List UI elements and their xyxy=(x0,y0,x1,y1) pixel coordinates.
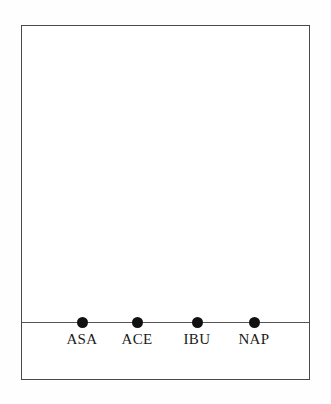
x-tick-label-nap: NAP xyxy=(238,331,269,347)
data-point-ace[interactable] xyxy=(132,317,143,328)
x-tick-label-ibu: IBU xyxy=(183,331,210,347)
data-point-asa[interactable] xyxy=(77,317,88,328)
x-axis-line xyxy=(22,322,309,323)
data-point-ibu[interactable] xyxy=(192,317,203,328)
plot-area xyxy=(22,26,309,322)
chart-screenshot: ASA ACE IBU NAP xyxy=(0,0,331,404)
data-point-nap[interactable] xyxy=(249,317,260,328)
x-tick-label-ace: ACE xyxy=(121,331,152,347)
plot-frame: ASA ACE IBU NAP xyxy=(21,25,310,380)
x-tick-label-asa: ASA xyxy=(66,331,97,347)
